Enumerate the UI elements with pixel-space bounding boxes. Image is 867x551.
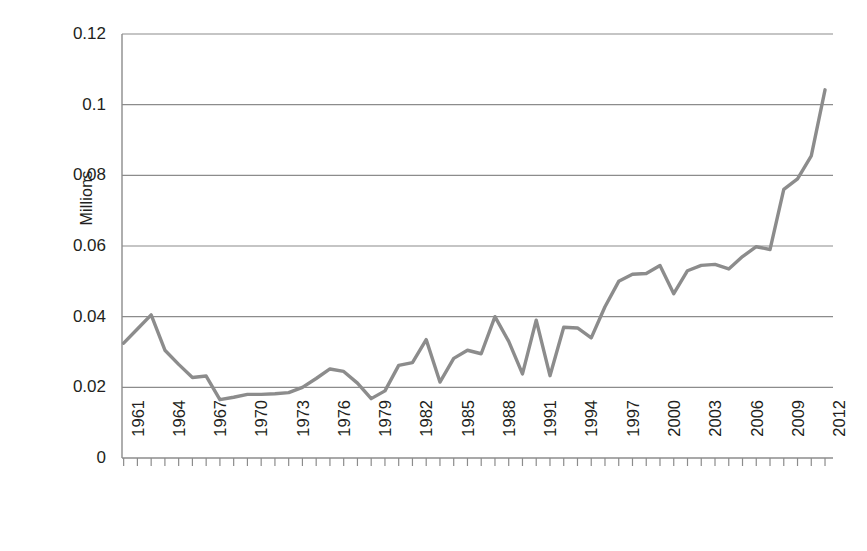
x-tick-label: 1991 — [542, 400, 559, 470]
x-tick-label: 1988 — [501, 400, 518, 470]
x-tick-label: 1967 — [212, 400, 229, 470]
x-tick-label: 2003 — [707, 400, 724, 470]
x-tick-label: 2009 — [790, 400, 807, 470]
x-tick-label: 1961 — [130, 400, 147, 470]
x-tick-label: 1985 — [460, 400, 477, 470]
x-tick-label: 2012 — [831, 400, 848, 470]
x-tick-label: 1964 — [171, 400, 188, 470]
x-tick-label: 1997 — [625, 400, 642, 470]
x-tick-label: 1973 — [295, 400, 312, 470]
x-tick-label: 2000 — [666, 400, 683, 470]
x-tick-label: 1994 — [583, 400, 600, 470]
line-chart: Millions 0.120.10.080.060.040.020 196119… — [0, 0, 867, 551]
x-axis-tick-labels: 1961196419671970197319761979198219851988… — [0, 0, 867, 551]
x-tick-label: 1982 — [418, 400, 435, 470]
x-tick-label: 1970 — [253, 400, 270, 470]
x-tick-label: 1979 — [377, 400, 394, 470]
x-tick-label: 2006 — [749, 400, 766, 470]
x-tick-label: 1976 — [336, 400, 353, 470]
